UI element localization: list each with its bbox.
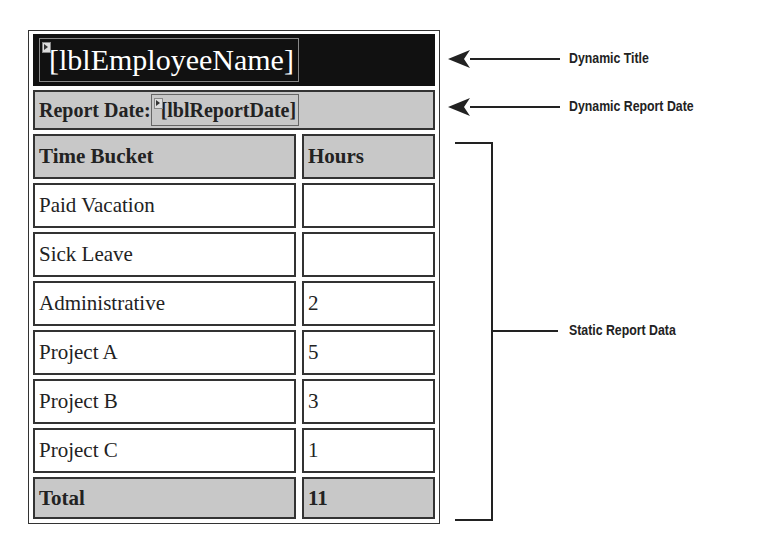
arrow-left-icon	[448, 98, 560, 116]
bracket-icon	[455, 143, 558, 520]
annotation-lines	[0, 0, 762, 551]
annotation-dynamic-title: Dynamic Title	[569, 50, 649, 66]
annotation-dynamic-report-date: Dynamic Report Date	[569, 98, 694, 114]
annotation-static-report-data: Static Report Data	[569, 322, 676, 338]
arrow-left-icon	[448, 50, 560, 68]
